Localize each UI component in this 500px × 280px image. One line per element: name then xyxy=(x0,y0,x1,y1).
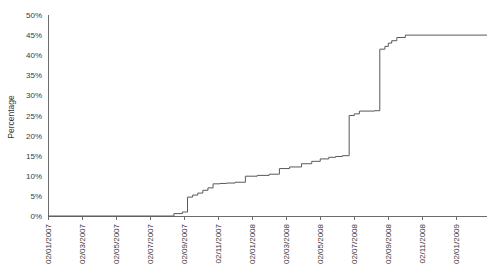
x-tick-label: 02/05/2008 xyxy=(316,223,325,264)
x-tick-label: 02/07/2008 xyxy=(350,223,359,264)
x-tick-label: 02/11/2008 xyxy=(418,223,427,263)
x-tick-label: 02/03/2007 xyxy=(78,223,87,264)
y-tick-label: 35% xyxy=(26,71,42,80)
y-tick-label: 40% xyxy=(26,51,42,60)
x-axis-tick-labels: 02/01/200702/03/200702/05/200702/07/2007… xyxy=(44,216,461,264)
y-tick-label: 45% xyxy=(26,31,42,40)
plot-series-group xyxy=(48,35,487,216)
x-tick-label: 02/01/2007 xyxy=(44,223,53,264)
y-tick-label: 5% xyxy=(30,192,42,201)
chart-container: Percentage 0%5%10%15%20%25%30%35%40%45%5… xyxy=(0,0,500,280)
y-tick-label: 30% xyxy=(26,91,42,100)
cumulative-percentage-line xyxy=(48,35,487,216)
axis-lines-path xyxy=(48,15,487,216)
y-tick-label: 50% xyxy=(26,11,42,20)
y-tick-label: 20% xyxy=(26,132,42,141)
axes-lines xyxy=(48,15,487,216)
y-axis-title-group: Percentage xyxy=(6,95,16,139)
x-tick-label: 02/01/2008 xyxy=(248,223,257,264)
x-tick-label: 02/09/2008 xyxy=(384,223,393,264)
percentage-step-chart: Percentage 0%5%10%15%20%25%30%35%40%45%5… xyxy=(0,0,500,280)
x-tick-label: 02/11/2007 xyxy=(214,223,223,263)
y-axis-title: Percentage xyxy=(6,95,16,139)
y-tick-label: 0% xyxy=(30,212,42,221)
y-tick-label: 15% xyxy=(26,152,42,161)
x-tick-label: 02/03/2008 xyxy=(282,223,291,264)
y-tick-label: 10% xyxy=(26,172,42,181)
x-tick-label: 02/09/2007 xyxy=(180,223,189,264)
y-axis-tick-labels: 0%5%10%15%20%25%30%35%40%45%50% xyxy=(26,11,42,221)
x-tick-label: 02/01/2009 xyxy=(452,223,461,264)
x-tick-label: 02/05/2007 xyxy=(112,223,121,264)
y-tick-label: 25% xyxy=(26,112,42,121)
x-tick-label: 02/07/2007 xyxy=(146,223,155,264)
